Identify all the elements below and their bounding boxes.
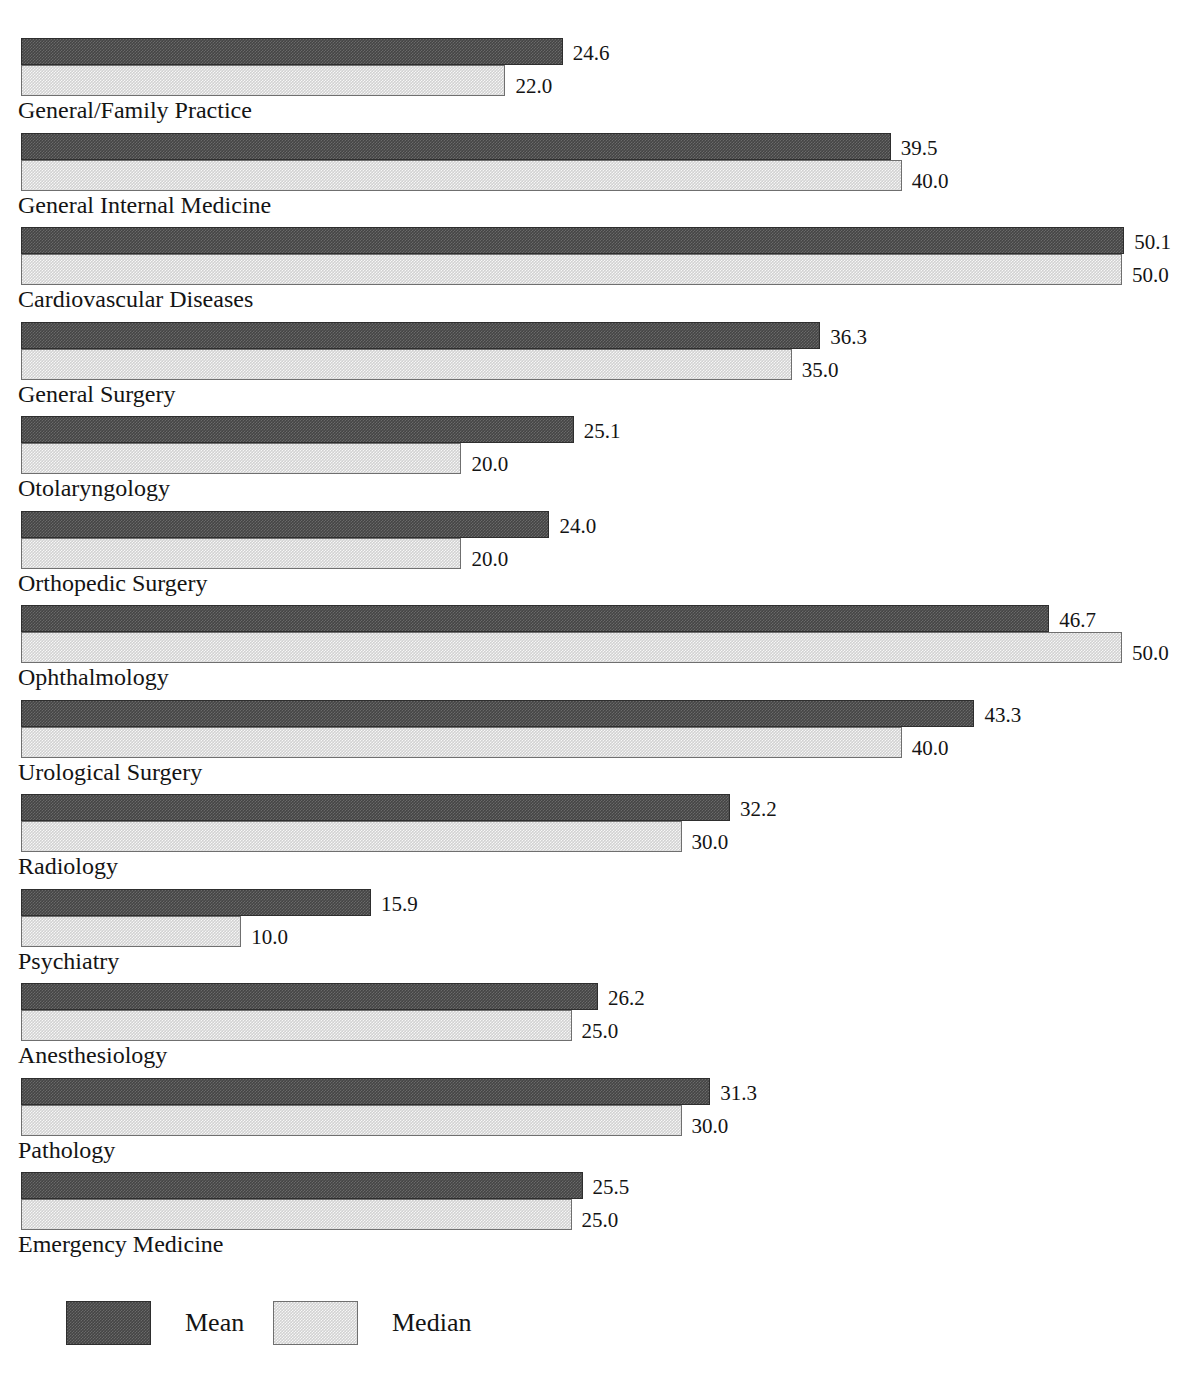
bar-value-label-mean: 26.2 [608,988,645,1009]
bar-mean [21,38,563,65]
bar-value-label-mean: 32.2 [740,799,777,820]
bar-value-label-mean: 50.1 [1134,232,1171,253]
bar-group: 46.750.0Ophthalmology [0,605,1203,699]
bar-median [21,1199,572,1230]
bar-median [21,1105,682,1136]
category-label: Emergency Medicine [18,1231,223,1259]
category-label: Psychiatry [18,948,119,976]
bar-mean [21,416,574,443]
category-label: General Surgery [18,381,176,409]
bar-group: 15.910.0Psychiatry [0,889,1203,983]
bar-mean [21,1078,710,1105]
bar-value-label-mean: 43.3 [984,705,1021,726]
bar-value-label-median: 35.0 [802,360,839,381]
bar-value-label-median: 25.0 [582,1210,619,1231]
bar-mean [21,227,1124,254]
bar-value-label-median: 25.0 [582,1021,619,1042]
chart-legend: MeanMedian [0,1300,1203,1380]
bar-value-label-median: 20.0 [471,549,508,570]
bar-value-label-median: 40.0 [912,171,949,192]
bar-group: 26.225.0Anesthesiology [0,983,1203,1077]
bar-value-label-median: 10.0 [251,927,288,948]
legend-entry-median: Median [273,1300,471,1346]
bar-group: 32.230.0Radiology [0,794,1203,888]
bar-mean [21,794,730,821]
bar-group: 24.020.0Orthopedic Surgery [0,511,1203,605]
category-label: Urological Surgery [18,759,202,787]
bar-mean [21,322,820,349]
bar-median [21,727,902,758]
bar-mean [21,1172,583,1199]
bar-value-label-median: 30.0 [692,1116,729,1137]
bar-value-label-mean: 24.0 [559,516,596,537]
bar-mean [21,983,598,1010]
category-label: Orthopedic Surgery [18,570,208,598]
category-label: General Internal Medicine [18,192,271,220]
bar-median [21,632,1122,663]
chart-plot-area: 24.622.0General/Family Practice39.540.0G… [0,0,1203,1290]
category-label: Ophthalmology [18,664,169,692]
bar-median [21,443,461,474]
legend-label: Median [392,1308,471,1338]
category-label: Radiology [18,853,118,881]
bar-value-label-median: 50.0 [1132,265,1169,286]
category-label: Cardiovascular Diseases [18,286,253,314]
bar-median [21,349,792,380]
bar-value-label-mean: 24.6 [573,43,610,64]
bar-value-label-median: 50.0 [1132,643,1169,664]
bar-mean [21,133,891,160]
bar-median [21,160,902,191]
bar-group: 25.525.0Emergency Medicine [0,1172,1203,1266]
category-label: Otolaryngology [18,475,170,503]
legend-entry-mean: Mean [66,1300,244,1346]
bar-value-label-mean: 25.1 [584,421,621,442]
bar-value-label-mean: 39.5 [901,138,938,159]
bar-value-label-median: 40.0 [912,738,949,759]
bar-median [21,538,461,569]
legend-swatch-mean [66,1301,151,1345]
bar-group: 31.330.0Pathology [0,1078,1203,1172]
bar-group: 36.335.0General Surgery [0,322,1203,416]
bar-median [21,821,682,852]
legend-swatch-median [273,1301,358,1345]
category-label: Pathology [18,1137,115,1165]
bar-mean [21,889,371,916]
bar-median [21,65,505,96]
bar-group: 43.340.0Urological Surgery [0,700,1203,794]
bar-value-label-median: 30.0 [692,832,729,853]
bar-value-label-mean: 15.9 [381,894,418,915]
bar-value-label-median: 22.0 [515,76,552,97]
bar-mean [21,605,1049,632]
bar-value-label-median: 20.0 [471,454,508,475]
bar-median [21,916,241,947]
grouped-bar-chart: 24.622.0General/Family Practice39.540.0G… [0,0,1203,1386]
bar-mean [21,511,549,538]
category-label: Anesthesiology [18,1042,167,1070]
bar-group: 39.540.0General Internal Medicine [0,133,1203,227]
legend-label: Mean [185,1308,244,1338]
bar-group: 25.120.0Otolaryngology [0,416,1203,510]
bar-group: 50.150.0Cardiovascular Diseases [0,227,1203,321]
bar-value-label-mean: 31.3 [720,1083,757,1104]
bar-value-label-mean: 25.5 [593,1177,630,1198]
bar-value-label-mean: 46.7 [1059,610,1096,631]
bar-value-label-mean: 36.3 [830,327,867,348]
bar-mean [21,700,974,727]
category-label: General/Family Practice [18,97,252,125]
bar-median [21,254,1122,285]
bar-median [21,1010,572,1041]
bar-group: 24.622.0General/Family Practice [0,38,1203,132]
